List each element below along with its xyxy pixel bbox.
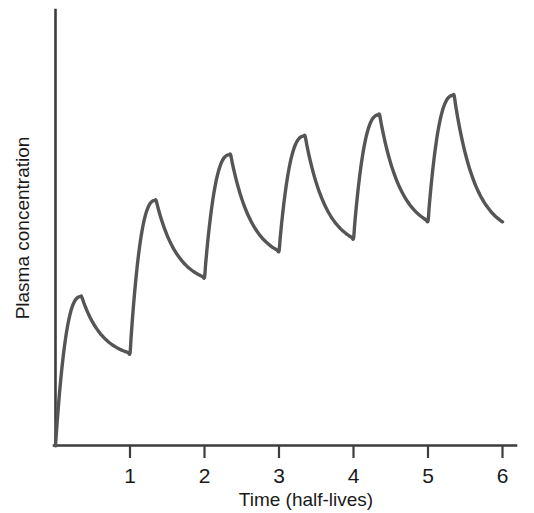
y-axis-title: Plasma concentration bbox=[12, 137, 33, 320]
chart-canvas: 1 2 3 4 5 6 Time (half-lives) Plasma con… bbox=[0, 0, 534, 513]
x-tick-label-6: 6 bbox=[497, 464, 509, 487]
x-tick-label-1: 1 bbox=[124, 464, 136, 487]
x-axis-tick-labels: 1 2 3 4 5 6 bbox=[124, 464, 508, 487]
x-tick-label-2: 2 bbox=[199, 464, 211, 487]
x-axis-title: Time (half-lives) bbox=[239, 489, 373, 510]
x-tick-label-4: 4 bbox=[348, 464, 360, 487]
x-axis-tick-marks bbox=[130, 446, 503, 458]
x-tick-label-5: 5 bbox=[422, 464, 434, 487]
x-tick-label-3: 3 bbox=[273, 464, 285, 487]
plasma-concentration-chart: 1 2 3 4 5 6 Time (half-lives) Plasma con… bbox=[0, 0, 534, 513]
concentration-curve bbox=[56, 94, 503, 445]
